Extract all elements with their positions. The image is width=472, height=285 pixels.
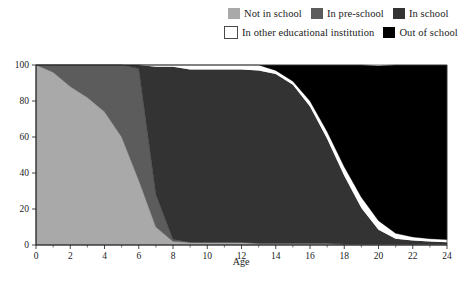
x-tick-label-24: 24 bbox=[442, 251, 452, 261]
legend-label-not-in-school: Not in school bbox=[244, 8, 302, 19]
legend-item-not-in-school: Not in school bbox=[228, 8, 302, 19]
x-tick-label-10: 10 bbox=[203, 251, 213, 261]
legend-swatch-out-of-school bbox=[383, 27, 395, 38]
legend-swatch-in-school bbox=[393, 8, 405, 19]
legend-item-other-institution: In other educational institution bbox=[224, 26, 374, 39]
legend-swatch-not-in-school bbox=[228, 8, 240, 19]
x-tick-label-20: 20 bbox=[374, 251, 384, 261]
legend-row-primary: Not in school In pre-school In school bbox=[228, 5, 458, 21]
x-tick-label-0: 0 bbox=[34, 251, 39, 261]
y-tick-label-100: 100 bbox=[15, 60, 30, 70]
chart-figure: Not in school In pre-school In school In… bbox=[0, 0, 472, 285]
x-axis-title: Age bbox=[233, 256, 250, 267]
x-tick-label-4: 4 bbox=[102, 251, 107, 261]
legend-row-secondary: In other educational institution Out of … bbox=[224, 24, 467, 40]
area-series-group bbox=[36, 65, 447, 245]
legend-label-in-pre-school: In pre-school bbox=[327, 8, 384, 19]
x-tick-label-18: 18 bbox=[340, 251, 350, 261]
y-tick-label-0: 0 bbox=[24, 240, 29, 250]
x-tick-label-22: 22 bbox=[408, 251, 418, 261]
legend-item-in-school: In school bbox=[393, 8, 449, 19]
legend-item-out-of-school: Out of school bbox=[383, 27, 457, 38]
x-tick-label-8: 8 bbox=[171, 251, 176, 261]
legend-swatch-in-pre-school bbox=[311, 8, 323, 19]
legend-item-in-pre-school: In pre-school bbox=[311, 8, 384, 19]
legend-swatch-other-institution bbox=[224, 26, 238, 39]
stacked-area-svg: 020406080100024681012141618202224 Age bbox=[0, 52, 472, 285]
x-tick-label-6: 6 bbox=[136, 251, 141, 261]
legend-label-other-institution: In other educational institution bbox=[242, 27, 374, 38]
x-tick-label-16: 16 bbox=[305, 251, 315, 261]
y-tick-label-20: 20 bbox=[20, 204, 30, 214]
x-tick-label-2: 2 bbox=[68, 251, 73, 261]
y-tick-label-60: 60 bbox=[20, 132, 30, 142]
legend-label-out-of-school: Out of school bbox=[399, 27, 457, 38]
y-tick-label-40: 40 bbox=[20, 168, 30, 178]
legend-label-in-school: In school bbox=[409, 8, 449, 19]
chart-plot-area: 020406080100024681012141618202224 Age bbox=[0, 52, 472, 285]
chart-legend: Not in school In pre-school In school In… bbox=[222, 4, 470, 40]
y-tick-label-80: 80 bbox=[20, 96, 30, 106]
x-tick-label-14: 14 bbox=[271, 251, 281, 261]
